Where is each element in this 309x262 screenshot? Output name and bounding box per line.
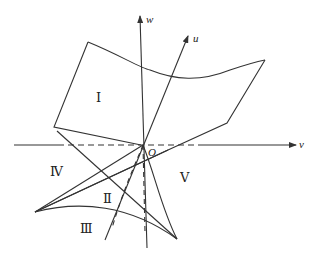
u-axis (105, 36, 188, 240)
region-label-V: Ⅴ (179, 170, 190, 185)
u-axis-label: u (193, 32, 199, 44)
region-label-II: Ⅱ (103, 191, 112, 206)
origin-label: O (148, 146, 156, 158)
fold-curve-right (143, 145, 177, 239)
w-axis (140, 16, 147, 248)
w-axis-label: w (146, 13, 154, 25)
surface-outline (35, 42, 265, 212)
region-label-III: Ⅲ (80, 221, 93, 236)
dashed-projections (112, 145, 145, 232)
fold-line-left (57, 131, 177, 239)
region-label-IV: Ⅳ (50, 164, 64, 179)
fold-curve-bottom (35, 206, 177, 239)
region-label-I: Ⅰ (96, 90, 101, 105)
v-axis-label: v (299, 138, 304, 150)
cusp-catastrophe-diagram: u v w O Ⅰ Ⅱ Ⅲ Ⅳ Ⅴ (0, 0, 309, 262)
